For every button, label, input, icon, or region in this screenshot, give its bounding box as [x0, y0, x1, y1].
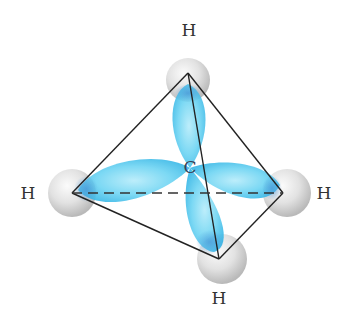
hydrogen-label-left: H	[21, 183, 36, 203]
hydrogen-label-bottom: H	[212, 288, 227, 308]
carbon-label: C	[183, 157, 196, 177]
sp3-orbitals	[74, 84, 282, 254]
edge-right-bottom	[219, 193, 283, 259]
hydrogen-label-top: H	[182, 20, 197, 40]
hydrogen-label-right: H	[317, 183, 332, 203]
methane-tetrahedron-diagram: C H H H H	[0, 0, 350, 326]
